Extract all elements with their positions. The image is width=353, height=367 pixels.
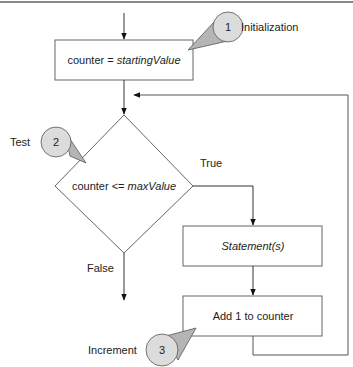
callout-1-bubble (188, 12, 243, 50)
init-variable: startingValue (117, 54, 181, 66)
init-box-label: counter = startingValue (67, 55, 180, 66)
callout-3-label: Increment (88, 345, 137, 356)
true-branch-arrow (193, 186, 253, 225)
statements-box-label: Statement(s) (222, 241, 285, 252)
callout-2-label: Test (10, 137, 30, 148)
test-text: counter <= (72, 180, 128, 192)
callout-3-bubble (146, 328, 196, 366)
callout-1-label: Initialization (241, 22, 298, 33)
init-text: counter = (67, 54, 116, 66)
test-diamond-label: counter <= maxValue (72, 181, 176, 192)
false-label: False (87, 263, 114, 274)
callout-1-number: 1 (225, 22, 231, 33)
true-label: True (200, 158, 222, 169)
increment-box-label: Add 1 to counter (213, 311, 294, 322)
callout-2-bubble (41, 127, 86, 163)
callout-2-number: 2 (53, 137, 59, 148)
callout-3-number: 3 (159, 345, 165, 356)
test-variable: maxValue (128, 180, 177, 192)
